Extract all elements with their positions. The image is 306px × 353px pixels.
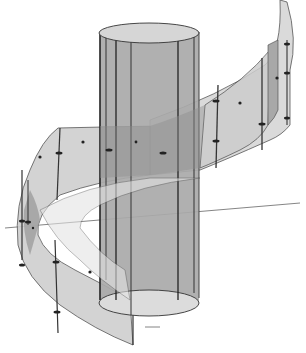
diagram-canvas bbox=[0, 0, 306, 353]
cylinder-helix-figure bbox=[0, 0, 306, 353]
